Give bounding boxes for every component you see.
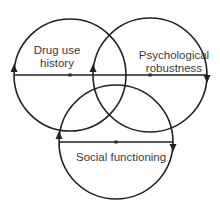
center-dot-drug-use-history [69,74,72,77]
center-dot-social-functioning [115,141,118,144]
label-line: robustness [134,62,214,75]
arrow-up-icon [11,64,18,72]
venn-diagram [0,0,220,211]
label-psychological-robustness: Psychological robustness [134,49,214,75]
label-line: Psychological [134,49,214,62]
label-line: Social functioning [76,151,156,164]
label-social-functioning: Social functioning [76,151,156,164]
arrow-up-icon [90,64,97,72]
arrow-down-icon [170,144,177,152]
label-line: Drug use [30,44,84,57]
label-drug-use-history: Drug use history [30,44,84,70]
arrow-up-icon [56,131,63,139]
arrow-down-icon [204,75,211,83]
label-line: history [30,57,84,70]
